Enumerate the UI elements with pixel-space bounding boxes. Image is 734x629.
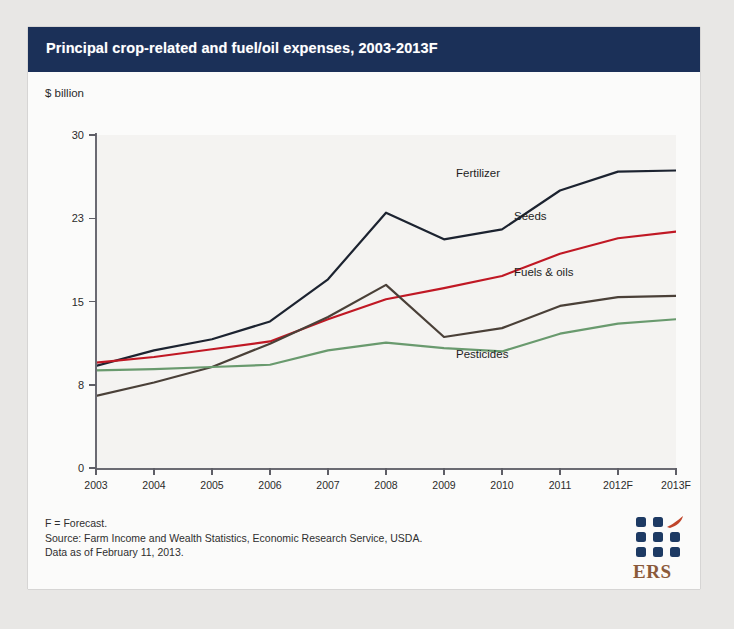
y-tick-mark bbox=[89, 218, 96, 220]
x-tick-mark bbox=[153, 468, 155, 475]
x-tick-label-2003: 2003 bbox=[84, 479, 107, 491]
footer-data-date-note: Data as of February 11, 2013. bbox=[45, 545, 585, 560]
y-tick-mark bbox=[89, 134, 96, 136]
ers-logo-dot bbox=[636, 517, 646, 527]
x-tick-label-2012F: 2012F bbox=[603, 479, 633, 491]
ers-logo-dot bbox=[653, 532, 663, 542]
x-tick-mark bbox=[443, 468, 445, 475]
series-label-fertilizer: Fertilizer bbox=[456, 167, 500, 179]
footer-forecast-note: F = Forecast. bbox=[45, 516, 585, 531]
ers-logo-dot bbox=[636, 547, 646, 557]
x-tick-label-2004: 2004 bbox=[142, 479, 165, 491]
ers-logo-dot bbox=[653, 517, 663, 527]
x-tick-label-2008: 2008 bbox=[374, 479, 397, 491]
figure-card: Principal crop-related and fuel/oil expe… bbox=[28, 27, 700, 589]
y-tick-label-8: 8 bbox=[28, 379, 84, 391]
x-tick-mark bbox=[211, 468, 213, 475]
y-tick-label-30: 30 bbox=[28, 129, 84, 141]
x-tick-mark bbox=[95, 468, 97, 475]
x-tick-label-2006: 2006 bbox=[258, 479, 281, 491]
footer-notes: F = Forecast. Source: Farm Income and We… bbox=[45, 516, 585, 560]
x-tick-label-2010: 2010 bbox=[490, 479, 513, 491]
series-label-pesticides: Pesticides bbox=[456, 348, 508, 360]
plot-area bbox=[96, 135, 676, 468]
chart-lines-svg bbox=[96, 135, 676, 468]
x-tick-mark bbox=[269, 468, 271, 475]
y-tick-mark bbox=[89, 384, 96, 386]
chart-header-bar: Principal crop-related and fuel/oil expe… bbox=[28, 27, 700, 72]
ers-wordmark: ERS bbox=[633, 561, 671, 583]
series-label-fuels-oils: Fuels & oils bbox=[514, 266, 573, 278]
y-tick-label-0: 0 bbox=[28, 462, 84, 474]
x-tick-label-2005: 2005 bbox=[200, 479, 223, 491]
x-tick-mark bbox=[501, 468, 503, 475]
series-label-seeds: Seeds bbox=[514, 210, 547, 222]
series-line-fuels-oils bbox=[96, 285, 676, 396]
y-axis-unit-label: $ billion bbox=[45, 87, 84, 99]
y-tick-label-23: 23 bbox=[28, 212, 84, 224]
chart-title: Principal crop-related and fuel/oil expe… bbox=[46, 40, 438, 56]
x-tick-label-2007: 2007 bbox=[316, 479, 339, 491]
series-line-fertilizer bbox=[96, 171, 676, 366]
y-tick-mark bbox=[89, 301, 96, 303]
ers-logo-dot bbox=[670, 532, 680, 542]
x-tick-mark bbox=[675, 468, 677, 475]
ers-logo-dot bbox=[670, 547, 680, 557]
x-tick-label-2009: 2009 bbox=[432, 479, 455, 491]
x-tick-mark bbox=[617, 468, 619, 475]
ers-logo-dot bbox=[636, 532, 646, 542]
ers-logo-dot bbox=[653, 547, 663, 557]
footer-divider bbox=[44, 508, 684, 509]
x-tick-label-2011: 2011 bbox=[549, 479, 572, 491]
x-tick-label-2013F: 2013F bbox=[661, 479, 691, 491]
x-tick-mark bbox=[327, 468, 329, 475]
footer-source-note: Source: Farm Income and Wealth Statistic… bbox=[45, 531, 585, 546]
ers-logo: ERS bbox=[632, 517, 690, 583]
ers-swoosh-icon bbox=[666, 516, 684, 529]
y-tick-label-15: 15 bbox=[28, 296, 84, 308]
x-tick-mark bbox=[385, 468, 387, 475]
x-tick-mark bbox=[559, 468, 561, 475]
